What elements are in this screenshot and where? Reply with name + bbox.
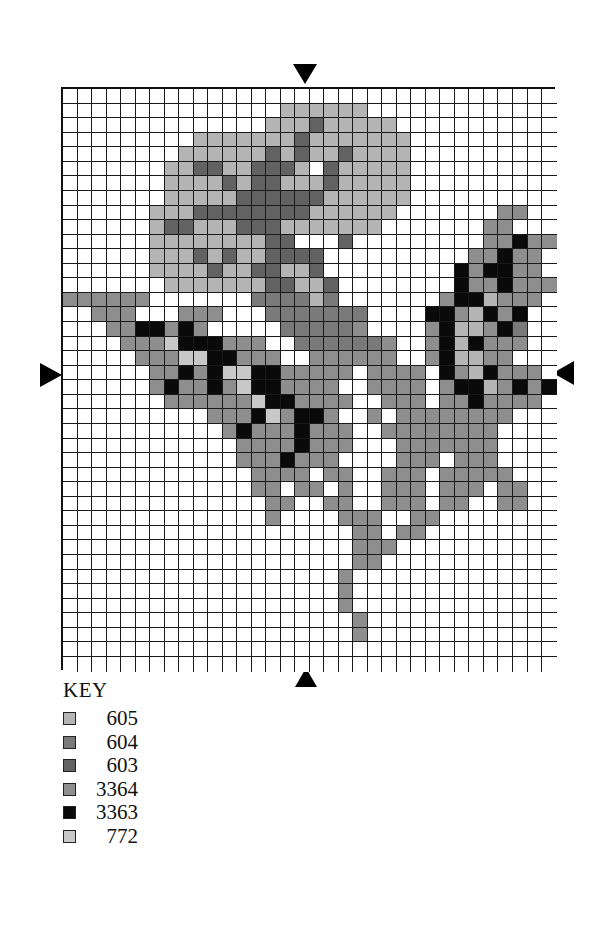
stitch-cell	[136, 424, 151, 439]
stitch-cell	[382, 540, 397, 555]
stitch-cell	[179, 584, 194, 599]
stitch-cell	[63, 337, 78, 352]
stitch-cell	[455, 628, 470, 643]
stitch-cell	[150, 366, 165, 381]
stitch-cell	[484, 264, 499, 279]
stitch-cell	[498, 395, 513, 410]
stitch-cell	[78, 409, 93, 424]
stitch-cell	[179, 657, 194, 672]
stitch-cell	[136, 206, 151, 221]
stitch-cell	[136, 599, 151, 614]
stitch-cell	[469, 409, 484, 424]
stitch-cell	[179, 278, 194, 293]
stitch-cell	[542, 307, 557, 322]
stitch-cell	[165, 628, 180, 643]
stitch-cell	[542, 235, 557, 250]
key-item: 603	[63, 754, 138, 778]
stitch-cell	[295, 380, 310, 395]
stitch-cell	[397, 555, 412, 570]
stitch-cell	[281, 337, 296, 352]
stitch-cell	[107, 220, 122, 235]
stitch-cell	[92, 293, 107, 308]
stitch-cell	[237, 395, 252, 410]
stitch-cell	[121, 366, 136, 381]
stitch-cell	[252, 409, 267, 424]
stitch-cell	[92, 104, 107, 119]
stitch-cell	[411, 642, 426, 657]
stitch-cell	[208, 468, 223, 483]
stitch-cell	[252, 278, 267, 293]
stitch-cell	[368, 599, 383, 614]
stitch-cell	[295, 657, 310, 672]
stitch-cell	[397, 133, 412, 148]
stitch-cell	[78, 293, 93, 308]
stitch-cell	[469, 657, 484, 672]
stitch-cell	[528, 439, 543, 454]
stitch-cell	[397, 482, 412, 497]
stitch-cell	[411, 570, 426, 585]
stitch-cell	[179, 511, 194, 526]
stitch-cell	[513, 278, 528, 293]
stitch-cell	[324, 657, 339, 672]
stitch-cell	[368, 307, 383, 322]
stitch-cell	[78, 264, 93, 279]
stitch-cell	[281, 409, 296, 424]
stitch-cell	[498, 264, 513, 279]
stitch-cell	[237, 264, 252, 279]
key-item: 772	[63, 825, 138, 849]
stitch-cell	[513, 642, 528, 657]
stitch-cell	[165, 191, 180, 206]
stitch-cell	[165, 526, 180, 541]
stitch-cell	[136, 118, 151, 133]
stitch-cell	[266, 540, 281, 555]
stitch-cell	[252, 235, 267, 250]
stitch-cell	[107, 89, 122, 104]
stitch-cell	[513, 220, 528, 235]
stitch-cell	[339, 584, 354, 599]
stitch-cell	[194, 453, 209, 468]
stitch-cell	[150, 249, 165, 264]
stitch-cell	[266, 555, 281, 570]
stitch-cell	[324, 322, 339, 337]
stitch-cell	[310, 322, 325, 337]
stitch-cell	[542, 380, 557, 395]
stitch-cell	[121, 307, 136, 322]
key-item: 3364	[63, 778, 138, 802]
stitch-cell	[528, 570, 543, 585]
stitch-cell	[455, 147, 470, 162]
stitch-cell	[324, 482, 339, 497]
stitch-cell	[528, 380, 543, 395]
stitch-cell	[107, 380, 122, 395]
stitch-cell	[208, 628, 223, 643]
stitch-cell	[63, 249, 78, 264]
stitch-cell	[208, 439, 223, 454]
stitch-cell	[542, 468, 557, 483]
stitch-cell	[426, 482, 441, 497]
stitch-cell	[179, 307, 194, 322]
stitch-cell	[469, 293, 484, 308]
stitch-cell	[455, 584, 470, 599]
stitch-cell	[237, 482, 252, 497]
stitch-cell	[353, 540, 368, 555]
stitch-cell	[353, 482, 368, 497]
stitch-cell	[78, 526, 93, 541]
stitch-cell	[266, 584, 281, 599]
stitch-cell	[252, 249, 267, 264]
stitch-cell	[92, 613, 107, 628]
stitch-cell	[353, 337, 368, 352]
stitch-cell	[382, 584, 397, 599]
stitch-cell	[208, 191, 223, 206]
stitch-cell	[382, 293, 397, 308]
stitch-cell	[223, 468, 238, 483]
stitch-cell	[368, 409, 383, 424]
stitch-cell	[440, 540, 455, 555]
stitch-cell	[382, 497, 397, 512]
stitch-cell	[353, 89, 368, 104]
stitch-cell	[136, 191, 151, 206]
stitch-cell	[266, 147, 281, 162]
stitch-cell	[353, 657, 368, 672]
stitch-cell	[397, 206, 412, 221]
stitch-cell	[281, 570, 296, 585]
stitch-cell	[513, 657, 528, 672]
stitch-cell	[310, 497, 325, 512]
